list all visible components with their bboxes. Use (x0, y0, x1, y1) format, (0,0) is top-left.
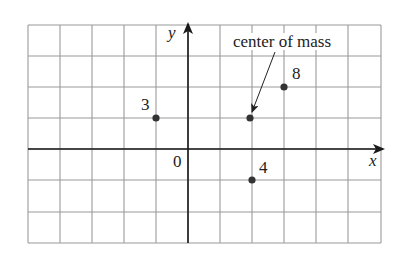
point-mass-dot (280, 83, 287, 90)
point-mass-dot (248, 176, 255, 183)
mass-label: 8 (292, 64, 301, 83)
coordinate-plane: x y 0 384 center of mass (0, 0, 403, 260)
center-of-mass: center of mass (231, 32, 333, 122)
center-of-mass-label: center of mass (233, 32, 331, 51)
point-masses: 384 (141, 64, 301, 184)
grid-lines (28, 25, 381, 243)
center-of-mass-point (246, 114, 253, 121)
center-of-mass-diagram: x y 0 384 center of mass (0, 0, 403, 260)
mass-label: 3 (141, 95, 150, 114)
x-axis-label: x (368, 151, 377, 170)
y-axis-label: y (166, 23, 176, 42)
mass-label: 4 (259, 158, 268, 177)
point-mass-dot (152, 114, 159, 121)
origin-label: 0 (173, 152, 182, 171)
center-of-mass-arrow (252, 52, 275, 112)
